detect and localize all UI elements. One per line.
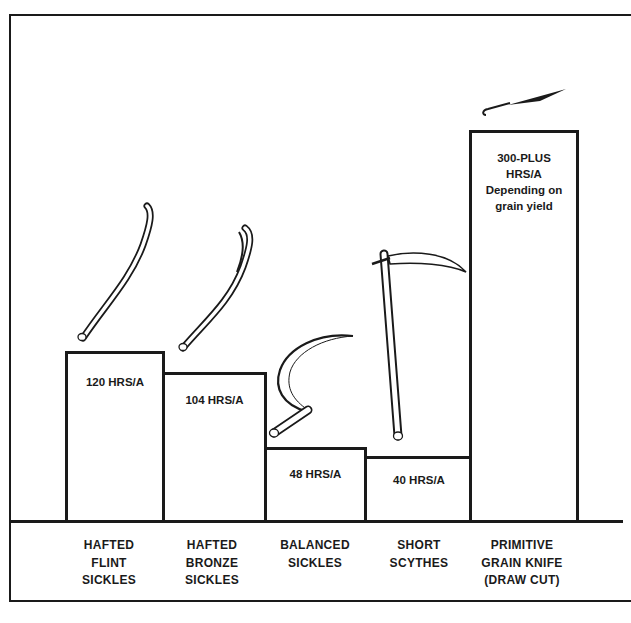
bar-hafted-flint-sickles: 120 HRS/A [65,351,165,521]
scythe-icon [368,244,473,449]
category-label: SHORT SCYTHES [364,537,474,572]
bar-hafted-bronze-sickles: 104 HRS/A [162,372,267,521]
category-label: PRIMITIVE GRAIN KNIFE (DRAW CUT) [467,537,577,590]
bar-short-scythes: 40 HRS/A [364,456,474,521]
balanced-sickle-icon [268,330,363,442]
category-label: HAFTED BRONZE SICKLES [157,537,267,590]
category-label: BALANCED SICKLES [260,537,370,572]
baseline [9,520,623,523]
bar-value-label: 48 HRS/A [267,466,364,482]
grain-knife-icon [480,85,570,120]
bar-primitive-grain-knife: 300-PLUS HRS/A Depending on grain yield [469,130,579,521]
bar-value-label: 40 HRS/A [367,472,471,488]
bar-value-label: 104 HRS/A [165,392,264,408]
bar-balanced-sickles: 48 HRS/A [264,447,367,521]
bar-value-label: 300-PLUS HRS/A Depending on grain yield [472,150,576,214]
flint-sickle-icon [75,200,165,345]
category-label: HAFTED FLINT SICKLES [54,537,164,590]
bar-value-label: 120 HRS/A [68,374,162,390]
bronze-sickle-icon [175,222,265,357]
